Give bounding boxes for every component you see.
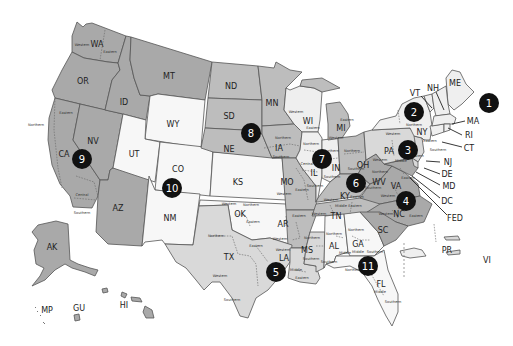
- svg-text:Southern: Southern: [430, 148, 446, 152]
- label-vi: VI: [483, 256, 491, 265]
- svg-text:Southern: Southern: [307, 184, 323, 188]
- label-ms: MS: [301, 246, 313, 255]
- svg-text:11: 11: [362, 261, 375, 272]
- svg-text:3: 3: [405, 145, 411, 156]
- svg-text:Southern: Southern: [273, 155, 289, 159]
- svg-text:Eastern: Eastern: [401, 176, 415, 180]
- label-sd: SD: [223, 112, 234, 121]
- label-wi: WI: [303, 117, 313, 126]
- svg-text:7: 7: [319, 154, 325, 165]
- label-ny: NY: [417, 128, 428, 137]
- label-nm: NM: [164, 214, 177, 223]
- label-ks: KS: [233, 178, 243, 187]
- label-mp: MP: [41, 306, 53, 315]
- svg-text:Middle: Middle: [352, 250, 365, 254]
- circuit-marker-4[interactable]: 4: [396, 191, 416, 211]
- svg-text:Northern: Northern: [303, 142, 319, 146]
- label-az: AZ: [113, 204, 124, 213]
- circuit-marker-3[interactable]: 3: [398, 140, 418, 160]
- label-mn: MN: [266, 99, 279, 108]
- svg-text:8: 8: [248, 128, 254, 139]
- circuit-marker-6[interactable]: 6: [346, 173, 366, 193]
- svg-text:Middle: Middle: [339, 251, 352, 255]
- state-me[interactable]: [446, 70, 474, 110]
- svg-text:Northern: Northern: [243, 203, 259, 207]
- label-ma: MA: [467, 117, 480, 126]
- circuit-marker-5[interactable]: 5: [266, 262, 286, 282]
- svg-text:Eastern: Eastern: [246, 220, 260, 224]
- svg-text:Eastern: Eastern: [103, 50, 117, 54]
- circuit-marker-9[interactable]: 9: [72, 149, 92, 169]
- svg-text:Eastern: Eastern: [249, 244, 263, 248]
- state-mt[interactable]: [130, 37, 212, 100]
- svg-text:Southern: Southern: [385, 300, 401, 304]
- svg-text:Central: Central: [300, 162, 313, 166]
- svg-text:Eastern: Eastern: [59, 111, 73, 115]
- label-fed: FED: [447, 214, 463, 223]
- label-vt: VT: [410, 89, 420, 98]
- circuit-marker-8[interactable]: 8: [241, 123, 261, 143]
- label-tx: TX: [223, 253, 235, 262]
- label-in: IN: [332, 164, 340, 173]
- svg-text:Eastern: Eastern: [295, 188, 309, 192]
- label-fl: FL: [376, 280, 386, 289]
- label-mt: MT: [163, 72, 175, 81]
- svg-text:Northern: Northern: [372, 170, 388, 174]
- svg-text:Central: Central: [75, 193, 88, 197]
- svg-text:Western: Western: [289, 110, 304, 114]
- label-wy: WY: [167, 120, 180, 129]
- label-ut: UT: [129, 150, 140, 159]
- label-nc: NC: [393, 210, 405, 219]
- svg-text:Middle: Middle: [290, 268, 303, 272]
- svg-text:Western: Western: [312, 212, 327, 216]
- label-nj: NJ: [444, 158, 452, 167]
- svg-text:Southern: Southern: [367, 250, 383, 254]
- label-va: VA: [391, 182, 402, 191]
- svg-text:Western: Western: [373, 158, 388, 162]
- label-sc: SC: [378, 226, 389, 235]
- circuit-marker-10[interactable]: 10: [162, 178, 182, 198]
- label-gu: GU: [73, 304, 85, 313]
- svg-text:Southern: Southern: [74, 211, 90, 215]
- svg-text:Middle: Middle: [335, 204, 348, 208]
- svg-text:Western: Western: [276, 248, 291, 252]
- label-id: ID: [120, 98, 129, 107]
- svg-text:Western: Western: [379, 212, 394, 216]
- svg-text:Northern: Northern: [275, 136, 291, 140]
- state-gu[interactable]: [74, 314, 80, 321]
- label-pa: PA: [384, 147, 394, 156]
- svg-text:Southern: Southern: [303, 257, 319, 261]
- label-tn: TN: [330, 212, 342, 221]
- svg-text:Northern: Northern: [348, 228, 364, 232]
- label-ca: CA: [58, 150, 70, 159]
- svg-text:1: 1: [486, 98, 492, 109]
- svg-text:Southern: Southern: [324, 175, 340, 179]
- label-ok: OK: [234, 210, 246, 219]
- svg-text:Southern: Southern: [224, 298, 240, 302]
- circuit-marker-11[interactable]: 11: [358, 256, 378, 276]
- label-nh: NH: [427, 84, 439, 93]
- label-md: MD: [442, 182, 455, 191]
- state-ks[interactable]: [210, 152, 286, 200]
- svg-text:Eastern: Eastern: [348, 204, 362, 208]
- us-circuit-map: WA OR CA NV ID MT AZ AK HI GU MP WY UT C…: [0, 0, 513, 346]
- state-ak[interactable]: [32, 221, 98, 286]
- label-nd: ND: [225, 82, 237, 91]
- label-mo: MO: [280, 178, 293, 187]
- svg-text:Southern: Southern: [321, 260, 337, 264]
- circuit-marker-7[interactable]: 7: [312, 149, 332, 169]
- label-ri: RI: [465, 131, 473, 140]
- svg-text:Western: Western: [273, 237, 288, 241]
- label-il: IL: [311, 169, 318, 178]
- svg-text:Northern: Northern: [406, 123, 422, 127]
- svg-text:9: 9: [79, 154, 85, 165]
- svg-text:Southern: Southern: [348, 167, 364, 171]
- svg-text:Northern: Northern: [28, 123, 44, 127]
- circuit-marker-2[interactable]: 2: [404, 102, 424, 122]
- svg-text:5: 5: [273, 267, 279, 278]
- circuit-marker-1[interactable]: 1: [479, 93, 499, 113]
- state-ri[interactable]: [444, 124, 450, 132]
- svg-text:Western: Western: [277, 192, 292, 196]
- label-dc: DC: [441, 197, 453, 206]
- label-pr: PR: [442, 246, 453, 255]
